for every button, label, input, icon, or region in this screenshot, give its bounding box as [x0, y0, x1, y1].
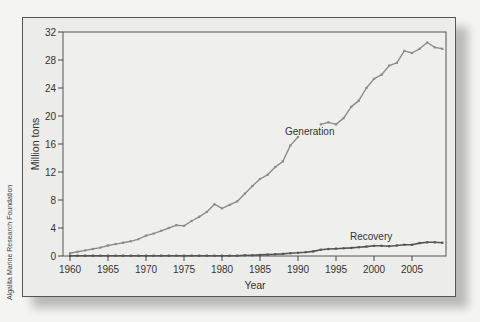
- data-point: [396, 244, 398, 246]
- data-point: [305, 251, 307, 253]
- data-point: [381, 74, 383, 76]
- data-point: [145, 235, 147, 237]
- data-point: [441, 242, 443, 244]
- data-point: [396, 62, 398, 64]
- data-point: [183, 225, 185, 227]
- y-tick-label: 28: [45, 55, 57, 66]
- data-point: [403, 244, 405, 246]
- data-point: [175, 224, 177, 226]
- data-point: [381, 245, 383, 247]
- data-point: [441, 48, 443, 50]
- data-point: [251, 185, 253, 187]
- data-point: [244, 193, 246, 195]
- data-point: [419, 48, 421, 50]
- data-point: [229, 204, 231, 206]
- x-tick-label: 1975: [173, 264, 196, 275]
- data-point: [236, 255, 238, 257]
- data-point: [411, 52, 413, 54]
- data-point: [350, 106, 352, 108]
- y-axis-title: Million tons: [29, 118, 41, 171]
- data-point: [251, 254, 253, 256]
- data-point: [289, 144, 291, 146]
- data-point: [267, 174, 269, 176]
- y-tick-label: 12: [45, 167, 57, 178]
- data-point: [122, 242, 124, 244]
- data-point: [77, 251, 79, 253]
- data-point: [350, 247, 352, 249]
- data-point: [122, 255, 124, 257]
- x-tick-label: 1995: [325, 264, 348, 275]
- data-point: [335, 123, 337, 125]
- data-point: [426, 241, 428, 243]
- x-tick-label: 2000: [363, 264, 386, 275]
- data-point: [107, 244, 109, 246]
- data-point: [99, 247, 101, 249]
- data-point: [244, 254, 246, 256]
- data-point: [153, 255, 155, 257]
- data-point: [419, 242, 421, 244]
- x-tick-label: 1960: [59, 264, 82, 275]
- data-point: [92, 255, 94, 257]
- data-point: [388, 65, 390, 67]
- data-point: [213, 203, 215, 205]
- data-point: [343, 247, 345, 249]
- data-point: [221, 207, 223, 209]
- data-point: [191, 220, 193, 222]
- data-point: [335, 248, 337, 250]
- data-point: [365, 245, 367, 247]
- data-point: [388, 245, 390, 247]
- x-tick-label: 1990: [287, 264, 310, 275]
- data-point: [320, 249, 322, 251]
- x-tick-label: 1985: [249, 264, 272, 275]
- data-point: [130, 255, 132, 257]
- data-point: [160, 230, 162, 232]
- data-point: [358, 100, 360, 102]
- data-point: [115, 243, 117, 245]
- data-point: [282, 160, 284, 162]
- data-point: [77, 255, 79, 257]
- data-point: [297, 252, 299, 254]
- x-tick-label: 2005: [401, 264, 424, 275]
- data-point: [168, 255, 170, 257]
- data-point: [312, 250, 314, 252]
- data-point: [267, 254, 269, 256]
- data-point: [137, 238, 139, 240]
- y-tick-label: 0: [50, 251, 56, 262]
- y-tick-label: 16: [45, 139, 57, 150]
- data-point: [153, 233, 155, 235]
- recovery-label: Recovery: [350, 231, 392, 242]
- data-point: [206, 211, 208, 213]
- data-point: [274, 253, 276, 255]
- data-point: [282, 253, 284, 255]
- data-point: [191, 255, 193, 257]
- data-point: [137, 255, 139, 257]
- data-point: [84, 255, 86, 257]
- data-point: [69, 252, 71, 254]
- data-point: [206, 255, 208, 257]
- y-tick-label: 24: [45, 83, 57, 94]
- data-point: [84, 249, 86, 251]
- data-point: [365, 87, 367, 89]
- data-point: [259, 254, 261, 256]
- data-point: [92, 248, 94, 250]
- data-point: [130, 240, 132, 242]
- data-point: [358, 246, 360, 248]
- line-chart: 0481216202428321960196519701975198019851…: [0, 0, 480, 322]
- data-point: [373, 245, 375, 247]
- data-point: [426, 41, 428, 43]
- data-point: [198, 255, 200, 257]
- data-point: [373, 78, 375, 80]
- data-point: [259, 178, 261, 180]
- data-point: [327, 121, 329, 123]
- y-tick-label: 4: [50, 223, 56, 234]
- data-point: [289, 252, 291, 254]
- generation-label: Generation: [285, 126, 334, 137]
- data-point: [99, 255, 101, 257]
- data-point: [168, 227, 170, 229]
- data-point: [175, 255, 177, 257]
- data-point: [434, 46, 436, 48]
- data-point: [213, 255, 215, 257]
- x-tick-label: 1970: [135, 264, 158, 275]
- data-point: [343, 117, 345, 119]
- data-point: [274, 166, 276, 168]
